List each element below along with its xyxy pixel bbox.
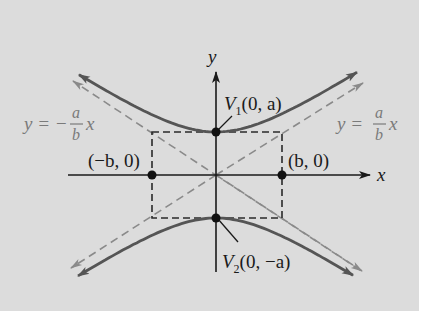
vertex-v1-point bbox=[212, 128, 221, 137]
svg-text:a: a bbox=[375, 104, 383, 121]
point-neg-b-label: (−b, 0) bbox=[88, 150, 140, 172]
hyperbola-diagram: x y V1(0, a) V2(0, −a) (−b, 0) (b, 0) y … bbox=[0, 0, 435, 315]
v1-leader-line bbox=[218, 116, 232, 130]
hyperbola-lower-branch-left bbox=[78, 218, 216, 276]
svg-text:a: a bbox=[72, 104, 80, 121]
svg-text:x: x bbox=[85, 113, 95, 134]
svg-text:b: b bbox=[72, 126, 80, 143]
asymptote-right-equation: y = a b x bbox=[335, 104, 398, 143]
svg-text:x: x bbox=[388, 113, 398, 134]
svg-text:b: b bbox=[375, 126, 383, 143]
vertex-v1-label: V1(0, a) bbox=[224, 93, 282, 118]
v2-leader-line bbox=[218, 219, 238, 242]
hyperbola-upper-branch-right bbox=[216, 72, 357, 132]
y-axis-label: y bbox=[206, 46, 217, 67]
hyperbola-upper-branch-left bbox=[79, 75, 216, 132]
vertex-v2-point bbox=[212, 214, 221, 223]
asymptote-left-equation: y = − a b x bbox=[22, 104, 95, 143]
vertex-v2-label: V2(0, −a) bbox=[222, 251, 290, 276]
point-neg-b bbox=[148, 171, 157, 180]
svg-text:y =: y = bbox=[335, 113, 363, 134]
point-pos-b bbox=[278, 171, 287, 180]
x-axis-label: x bbox=[376, 164, 386, 185]
point-pos-b-label: (b, 0) bbox=[288, 150, 329, 172]
svg-text:y = −: y = − bbox=[22, 113, 68, 134]
